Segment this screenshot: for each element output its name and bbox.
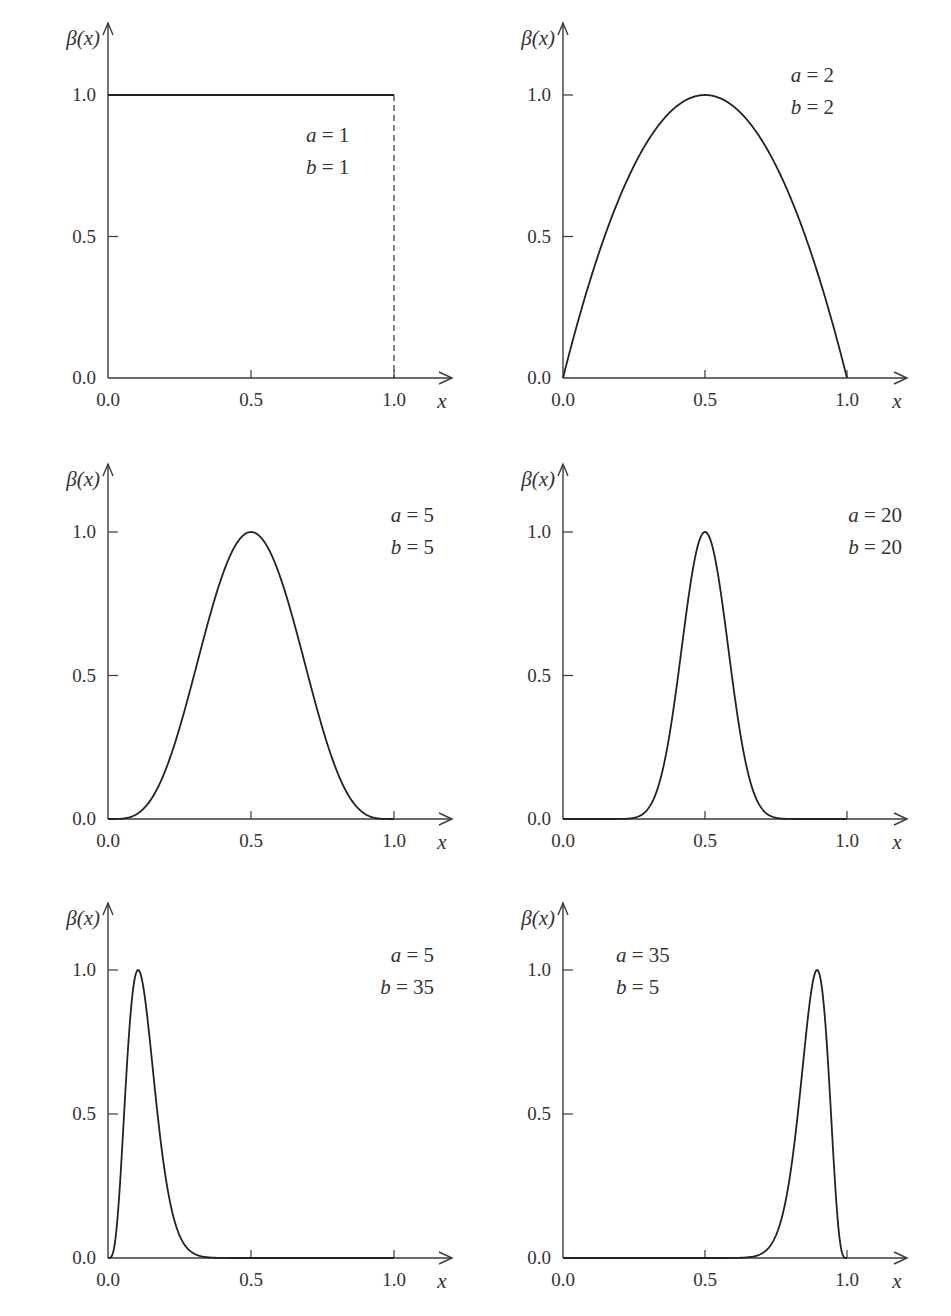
- x-axis-label: x: [436, 830, 447, 854]
- y-tick-label: 0.5: [527, 665, 551, 686]
- x-axis-label: x: [891, 830, 902, 854]
- param-label-a: a = 35: [616, 943, 670, 967]
- x-tick-label: 1.0: [835, 830, 859, 851]
- x-tick-label: 0.5: [693, 830, 717, 851]
- x-tick-label: 0.0: [551, 389, 575, 410]
- y-axis-label: β(x): [520, 467, 555, 491]
- y-tick-label: 0.5: [72, 226, 96, 247]
- x-tick-label: 0.5: [693, 1269, 717, 1290]
- x-tick-label: 0.0: [551, 1269, 575, 1290]
- y-tick-label: 1.0: [527, 521, 551, 542]
- density-curve: [563, 532, 847, 819]
- beta-panel-35-5: 0.00.51.00.00.51.0β(x)xa = 35b = 5: [520, 903, 907, 1293]
- y-axis-label: β(x): [65, 26, 100, 50]
- y-tick-label: 0.0: [72, 808, 96, 829]
- x-tick-label: 0.0: [551, 830, 575, 851]
- density-curve: [108, 970, 394, 1258]
- y-axis-label: β(x): [65, 906, 100, 930]
- beta-panel-5-5: 0.00.51.00.00.51.0β(x)xa = 5b = 5: [65, 464, 452, 854]
- x-tick-label: 0.5: [239, 1269, 263, 1290]
- y-tick-label: 1.0: [527, 84, 551, 105]
- y-tick-label: 0.0: [527, 1247, 551, 1268]
- density-curve: [563, 970, 847, 1258]
- param-label-b: b = 5: [616, 975, 659, 999]
- param-label-b: b = 1: [306, 155, 349, 179]
- param-label-b: b = 5: [391, 535, 434, 559]
- x-tick-label: 1.0: [382, 1269, 406, 1290]
- beta-panel-20-20: 0.00.51.00.00.51.0β(x)xa = 20b = 20: [520, 464, 907, 854]
- x-axis-label: x: [891, 1269, 902, 1293]
- y-tick-label: 1.0: [72, 521, 96, 542]
- param-label-b: b = 20: [848, 535, 902, 559]
- density-curve: [563, 95, 847, 378]
- x-tick-label: 1.0: [382, 830, 406, 851]
- param-label-a: a = 5: [391, 943, 434, 967]
- y-tick-label: 0.0: [72, 367, 96, 388]
- param-label-a: a = 5: [391, 503, 434, 527]
- param-label-b: b = 2: [791, 95, 834, 119]
- x-tick-label: 1.0: [835, 1269, 859, 1290]
- x-axis-label: x: [436, 389, 447, 413]
- beta-panel-5-35: 0.00.51.00.00.51.0β(x)xa = 5b = 35: [65, 903, 452, 1293]
- beta-distribution-figure: 0.00.51.00.00.51.0β(x)xa = 1b = 10.00.51…: [0, 0, 951, 1316]
- param-label-a: a = 20: [848, 503, 902, 527]
- beta-panel-1-1: 0.00.51.00.00.51.0β(x)xa = 1b = 1: [65, 23, 452, 413]
- x-tick-label: 0.5: [239, 389, 263, 410]
- y-tick-label: 1.0: [72, 84, 96, 105]
- x-tick-label: 1.0: [835, 389, 859, 410]
- x-axis-label: x: [436, 1269, 447, 1293]
- x-tick-label: 0.5: [693, 389, 717, 410]
- y-tick-label: 0.0: [527, 808, 551, 829]
- y-axis-label: β(x): [65, 467, 100, 491]
- beta-panel-2-2: 0.00.51.00.00.51.0β(x)xa = 2b = 2: [520, 23, 907, 413]
- y-tick-label: 0.5: [527, 1103, 551, 1124]
- param-label-a: a = 1: [306, 123, 349, 147]
- param-label-b: b = 35: [380, 975, 434, 999]
- y-tick-label: 0.5: [527, 226, 551, 247]
- y-axis-label: β(x): [520, 906, 555, 930]
- y-tick-label: 1.0: [527, 959, 551, 980]
- y-tick-label: 0.5: [72, 1103, 96, 1124]
- y-axis-label: β(x): [520, 26, 555, 50]
- density-curve: [108, 532, 394, 819]
- x-tick-label: 0.0: [96, 389, 120, 410]
- x-tick-label: 0.5: [239, 830, 263, 851]
- y-tick-label: 0.5: [72, 665, 96, 686]
- param-label-a: a = 2: [791, 63, 834, 87]
- x-tick-label: 0.0: [96, 1269, 120, 1290]
- y-tick-label: 1.0: [72, 959, 96, 980]
- x-tick-label: 0.0: [96, 830, 120, 851]
- y-tick-label: 0.0: [72, 1247, 96, 1268]
- x-tick-label: 1.0: [382, 389, 406, 410]
- x-axis-label: x: [891, 389, 902, 413]
- y-tick-label: 0.0: [527, 367, 551, 388]
